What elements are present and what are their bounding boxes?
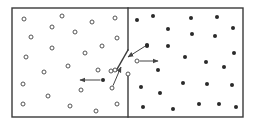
filled-molecule-icon: [197, 102, 201, 106]
open-molecule-icon: [60, 14, 64, 18]
filled-molecule-icon: [183, 55, 187, 59]
filled-molecule-icon: [231, 26, 235, 30]
filled-molecule-icon: [205, 82, 209, 86]
filled-molecule-icon: [156, 68, 160, 72]
open-molecule-icon: [22, 17, 26, 21]
open-molecule-icon: [90, 20, 94, 24]
filled-molecule-icon: [230, 83, 234, 87]
filled-molecule-icon: [166, 44, 170, 48]
filled-molecule-icon: [217, 102, 221, 106]
open-molecule-icon: [94, 109, 98, 113]
open-molecule-icon: [113, 16, 117, 20]
open-molecule-icon: [50, 46, 54, 50]
filled-molecule-icon: [222, 65, 226, 69]
filled-molecule-icon: [213, 34, 217, 38]
open-molecule-icon: [21, 82, 25, 86]
open-molecule-icon: [42, 70, 46, 74]
open-molecule-icon: [126, 72, 130, 76]
filled-molecule-icon: [101, 78, 105, 82]
open-molecule-icon: [46, 94, 50, 98]
open-molecule-icon: [29, 35, 33, 39]
open-molecule-icon: [110, 86, 114, 90]
filled-molecule-icon: [151, 14, 155, 18]
filled-molecule-icon: [190, 32, 194, 36]
filled-molecule-icon: [135, 18, 139, 22]
filled-molecule-icon: [234, 105, 238, 109]
filled-molecule-icon: [141, 105, 145, 109]
open-molecule-icon: [66, 64, 70, 68]
open-molecule-icon: [50, 25, 54, 29]
open-molecule-icon: [109, 69, 113, 73]
open-molecule-icon: [68, 104, 72, 108]
filled-molecule-icon: [171, 107, 175, 111]
open-molecule-icon: [24, 55, 28, 59]
open-molecule-icon: [73, 30, 77, 34]
open-molecule-icon: [115, 36, 119, 40]
open-molecule-icon: [115, 102, 119, 106]
filled-molecule-icon: [158, 91, 162, 95]
background: [0, 0, 253, 126]
open-molecule-icon: [83, 51, 87, 55]
open-molecule-icon: [135, 59, 139, 63]
filled-molecule-icon: [166, 27, 170, 31]
open-molecule-icon: [96, 68, 100, 72]
open-molecule-icon: [100, 44, 104, 48]
filled-molecule-icon: [204, 60, 208, 64]
filled-molecule-icon: [181, 81, 185, 85]
maxwell-demon-diagram: [0, 0, 253, 126]
open-molecule-icon: [21, 102, 25, 106]
open-molecule-icon: [79, 88, 83, 92]
filled-molecule-icon: [215, 15, 219, 19]
filled-molecule-icon: [139, 85, 143, 89]
filled-molecule-icon: [189, 16, 193, 20]
filled-molecule-icon: [145, 43, 149, 47]
open-molecule-icon: [113, 68, 117, 72]
filled-molecule-icon: [232, 51, 236, 55]
